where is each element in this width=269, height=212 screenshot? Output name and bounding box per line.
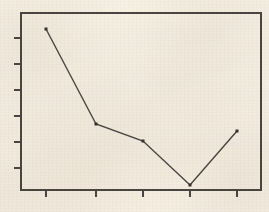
data-line-path: [46, 29, 237, 185]
chart-figure: [0, 0, 269, 212]
data-point-marker-1: [45, 28, 48, 31]
data-point-marker-3: [142, 140, 145, 143]
y-axis-ticks: [14, 38, 21, 168]
data-point-marker-5: [236, 130, 239, 133]
data-point-marker-2: [95, 123, 98, 126]
data-point-marker-4: [189, 184, 192, 187]
line-chart-plot: [0, 0, 269, 212]
data-line-series: [46, 29, 237, 185]
x-axis-ticks: [46, 190, 237, 197]
plot-frame-box: [21, 13, 261, 190]
plot-frame: [21, 13, 261, 190]
